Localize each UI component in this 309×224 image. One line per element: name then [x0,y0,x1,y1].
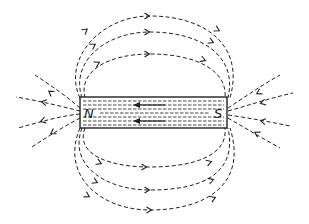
north-pole-label: N [84,106,94,121]
magnetic-field-diagram: N S [0,0,309,224]
top-field-lines [75,13,233,98]
right-fan-field-lines [228,75,293,148]
south-pole-label: S [214,106,222,121]
bar-magnet: N S [80,97,227,128]
bottom-field-lines [75,128,234,213]
left-fan-field-lines [16,75,80,147]
